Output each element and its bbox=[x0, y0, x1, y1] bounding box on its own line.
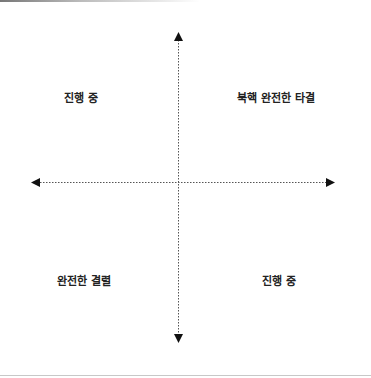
arrow-down-icon bbox=[174, 334, 183, 343]
quadrant-label-top-left: 진행 중 bbox=[64, 92, 98, 105]
quadrant-label-bottom-right: 진행 중 bbox=[262, 275, 296, 288]
quadrant-diagram bbox=[0, 0, 371, 378]
bottom-border bbox=[0, 375, 371, 376]
quadrant-label-top-right: 북핵 완전한 타결 bbox=[237, 92, 315, 105]
arrow-left-icon bbox=[31, 178, 40, 187]
quadrant-label-bottom-left: 완전한 결렬 bbox=[57, 275, 111, 288]
arrow-up-icon bbox=[174, 32, 183, 41]
arrow-right-icon bbox=[326, 178, 335, 187]
